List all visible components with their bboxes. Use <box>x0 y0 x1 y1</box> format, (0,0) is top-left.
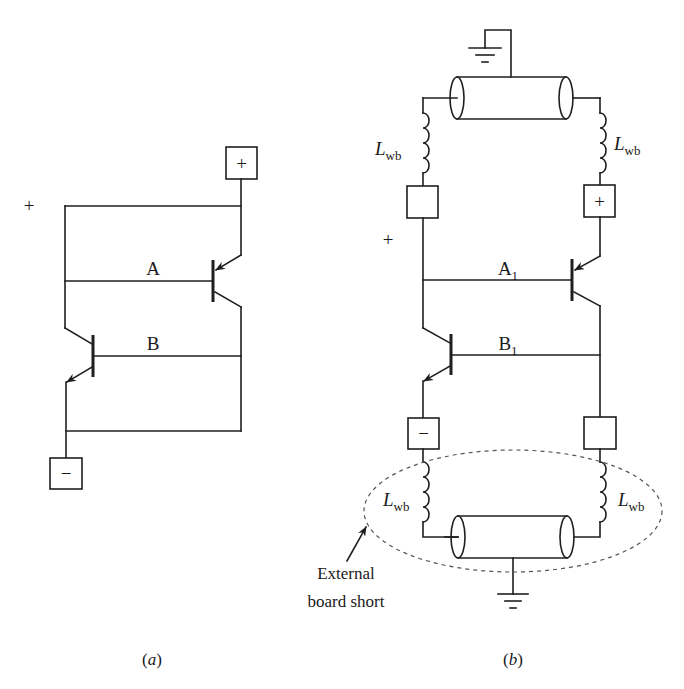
annotation-line2: board short <box>308 592 385 611</box>
terminal-plus-a-label: + <box>236 153 247 174</box>
terminal-box-top-left <box>407 186 438 218</box>
caption-b: (b) <box>503 650 523 669</box>
transistor-a <box>213 255 241 307</box>
circuit-figure: + + A B <box>0 0 684 689</box>
panel-b: Lwb Lwb + + A1 <box>308 30 662 669</box>
ground-icon-bottom <box>498 558 528 608</box>
inductor-top-left <box>423 98 429 186</box>
terminal-minus-a-label: − <box>61 463 72 484</box>
inductor-label-top-left: Lwb <box>374 138 401 163</box>
terminal-plus-b: + <box>584 185 615 217</box>
terminal-plus-a: + <box>226 147 257 179</box>
inductor-label-bottom-left: Lwb <box>382 489 409 514</box>
panel-a: + + A B <box>24 147 257 669</box>
coax-cable-bottom <box>445 516 574 558</box>
inductor-top-right <box>600 98 606 185</box>
terminal-box-bottom-right <box>584 417 616 449</box>
terminal-minus-a: − <box>50 458 82 489</box>
annotation-line1: External <box>317 564 375 583</box>
caption-a: (a) <box>142 650 162 669</box>
plus-label-b: + <box>383 229 394 250</box>
inductor-label-bottom-right: Lwb <box>617 489 644 514</box>
transistor-a1 <box>572 256 600 306</box>
plus-label-a: + <box>24 195 35 216</box>
terminal-minus-b-label: − <box>418 423 429 444</box>
wires-a <box>65 179 241 458</box>
coax-cable-top <box>423 77 600 119</box>
terminal-minus-b: − <box>408 418 439 449</box>
ground-icon-top <box>469 30 511 77</box>
inductor-label-top-right: Lwb <box>613 133 640 158</box>
wires-b <box>423 217 600 418</box>
transistor-b1 <box>423 328 451 381</box>
node-label-a: A <box>146 258 160 279</box>
terminal-plus-b-label: + <box>594 191 605 212</box>
transistor-b <box>65 328 93 382</box>
annotation-arrow-icon <box>347 527 366 561</box>
node-label-b: B <box>147 333 160 354</box>
inductor-bottom-right <box>574 449 606 537</box>
